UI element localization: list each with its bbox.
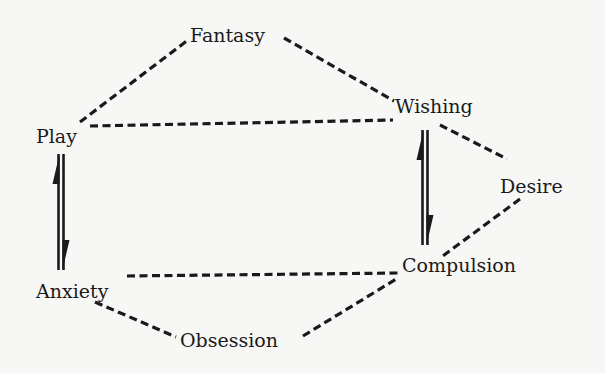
node-fantasy: Fantasy	[190, 24, 265, 46]
arrowhead-up-icon	[417, 130, 424, 160]
arrowhead-up-icon	[53, 154, 60, 184]
node-obsession: Obsession	[180, 329, 278, 351]
arrowhead-down-icon	[427, 215, 434, 245]
edge-anxiety-obsession	[95, 302, 176, 337]
edge-fantasy-wishing	[284, 38, 394, 101]
equilibrium-arrow-wishing-compulsion	[417, 130, 434, 245]
edge-desire-compulsion	[440, 199, 520, 258]
edge-wishing-desire	[440, 125, 507, 159]
node-wishing: Wishing	[395, 95, 473, 117]
edge-obsession-compulsion	[303, 278, 398, 336]
equilibrium-arrow-play-anxiety	[53, 154, 70, 270]
edges	[80, 38, 520, 337]
node-play: Play	[36, 125, 77, 147]
arrowhead-down-icon	[63, 240, 70, 270]
node-compulsion: Compulsion	[402, 254, 516, 276]
node-anxiety: Anxiety	[35, 280, 109, 302]
edge-anxiety-compulsion	[127, 273, 398, 276]
edge-play-wishing	[90, 120, 393, 126]
edge-play-fantasy	[80, 40, 188, 122]
node-desire: Desire	[500, 175, 563, 197]
concept-diagram: Fantasy Wishing Play Desire Anxiety Comp…	[0, 0, 605, 373]
equilibrium-arrows	[53, 130, 434, 270]
